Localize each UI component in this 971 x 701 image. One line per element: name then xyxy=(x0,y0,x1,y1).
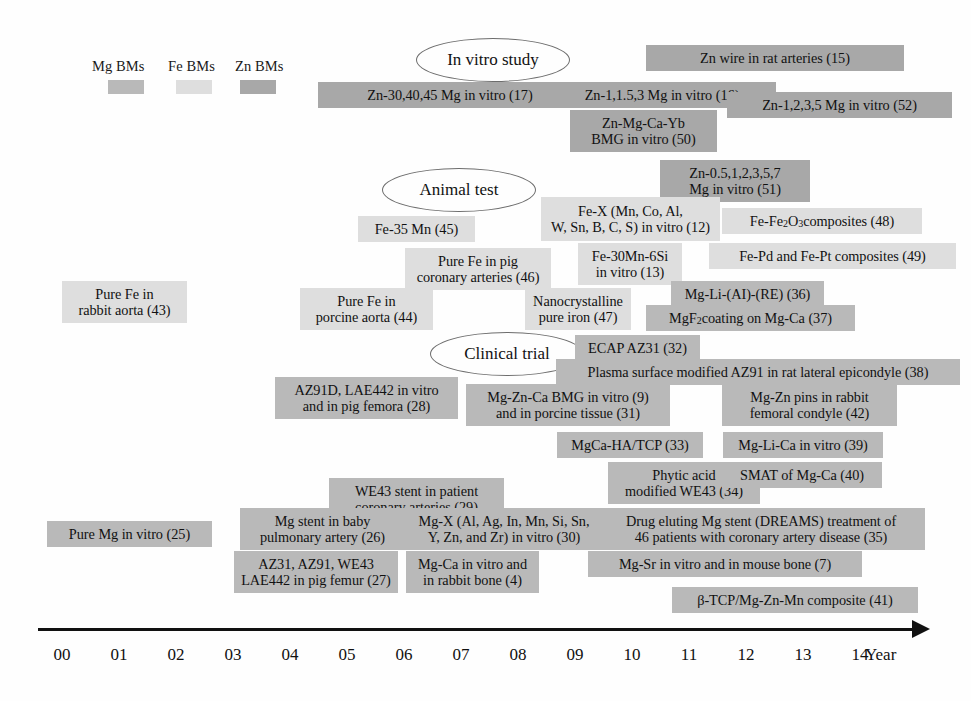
event-box: Zn-30,40,45 Mg in vitro (17) xyxy=(318,82,582,108)
event-box: Pure Fe in porcine aorta (44) xyxy=(300,288,433,330)
event-box: Pure Mg in vitro (25) xyxy=(47,521,212,547)
legend-label-zn: Zn BMs xyxy=(235,58,284,75)
event-box: Fe-35 Mn (45) xyxy=(358,216,475,242)
axis-tick-13: 13 xyxy=(783,645,823,665)
axis-line xyxy=(38,628,918,631)
event-box: Nanocrystalline pure iron (47) xyxy=(525,288,631,330)
axis-tick-03: 03 xyxy=(213,645,253,665)
event-box: SMAT of Mg-Ca (40) xyxy=(722,462,882,488)
event-box: Mg-Li-Ca in vitro (39) xyxy=(723,432,883,458)
axis-tick-09: 09 xyxy=(555,645,595,665)
axis-tick-12: 12 xyxy=(726,645,766,665)
axis-tick-08: 08 xyxy=(498,645,538,665)
legend-swatch-zn xyxy=(240,80,276,94)
event-box: Mg stent in baby pulmonary artery (26) xyxy=(240,508,405,550)
category-ellipse: In vitro study xyxy=(416,38,570,82)
axis-tick-07: 07 xyxy=(441,645,481,665)
axis-tick-05: 05 xyxy=(327,645,367,665)
legend-label-mg: Mg BMs xyxy=(92,58,145,75)
axis-arrow-icon xyxy=(912,620,930,638)
event-box: MgF2 coating on Mg-Ca (37) xyxy=(646,305,855,331)
timeline-figure: Mg BMs Fe BMs Zn BMs In vitro studyAnima… xyxy=(0,0,971,701)
event-box: Mg-Ca in vitro and in rabbit bone (4) xyxy=(406,551,539,593)
event-box: Mg-X (Al, Ag, In, Mn, Si, Sn, Y, Zn, and… xyxy=(404,508,604,550)
axis-tick-06: 06 xyxy=(384,645,424,665)
legend-swatch-mg xyxy=(108,80,144,94)
axis-label-year: Year xyxy=(865,645,896,665)
legend-swatch-fe xyxy=(176,80,212,94)
axis-tick-11: 11 xyxy=(669,645,709,665)
event-box: Pure Fe in rabbit aorta (43) xyxy=(62,281,187,323)
event-box: Zn-1,2,3,5 Mg in vitro (52) xyxy=(727,92,952,118)
axis-tick-04: 04 xyxy=(270,645,310,665)
event-box: ECAP AZ31 (32) xyxy=(575,335,700,361)
event-box: MgCa-HA/TCP (33) xyxy=(557,432,703,458)
event-box: Mg-Li-(AI)-(RE) (36) xyxy=(671,281,824,307)
event-box: Pure Fe in pig coronary arteries (46) xyxy=(405,248,551,290)
event-box: Fe-X (Mn, Co, Al, W, Sn, B, C, S) in vit… xyxy=(541,197,720,241)
event-box: Fe-30Mn-6Si in vitro (13) xyxy=(578,243,682,285)
event-box: Mg-Zn pins in rabbit femoral condyle (42… xyxy=(722,384,897,426)
event-box: Plasma surface modified AZ91 in rat late… xyxy=(556,359,960,385)
event-box: Mg-Sr in vitro and in mouse bone (7) xyxy=(588,551,862,577)
event-box: Mg-Zn-Ca BMG in vitro (9) and in porcine… xyxy=(466,384,670,426)
axis-tick-02: 02 xyxy=(156,645,196,665)
event-box: Zn-0.5,1,2,3,5,7 Mg in vitro (51) xyxy=(660,160,810,202)
event-box: Drug eluting Mg stent (DREAMS) treatment… xyxy=(597,508,925,550)
category-ellipse: Animal test xyxy=(382,168,536,212)
event-box: Zn-Mg-Ca-Yb BMG in vitro (50) xyxy=(570,110,717,152)
event-box: Fe-Fe2O3 composites (48) xyxy=(722,208,922,234)
event-box: AZ31, AZ91, WE43 LAE442 in pig femur (27… xyxy=(234,551,398,593)
event-box: β-TCP/Mg-Zn-Mn composite (41) xyxy=(672,587,918,613)
event-box: Zn wire in rat arteries (15) xyxy=(646,45,904,71)
axis-tick-01: 01 xyxy=(99,645,139,665)
event-box: AZ91D, LAE442 in vitro and in pig femora… xyxy=(275,377,458,419)
axis-tick-00: 00 xyxy=(42,645,82,665)
axis-tick-10: 10 xyxy=(612,645,652,665)
legend-label-fe: Fe BMs xyxy=(168,58,215,75)
event-box: Fe-Pd and Fe-Pt composites (49) xyxy=(709,243,956,269)
